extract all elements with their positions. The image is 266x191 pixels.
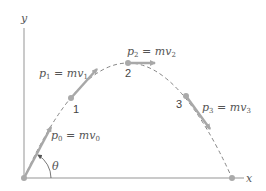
point-1-label: 1 xyxy=(73,103,79,115)
angle-theta-label: θ xyxy=(52,160,59,173)
point-2 xyxy=(125,60,131,66)
point-2-label: 2 xyxy=(125,67,131,79)
point-origin xyxy=(21,175,27,181)
momentum-label-1: p1 = mv1 xyxy=(39,67,88,81)
point-1 xyxy=(68,95,74,101)
projectile-diagram: y x θ 1 2 3 p0 = mv0 p1 = mv1 p2 = mv2 p… xyxy=(0,0,266,191)
point-landing xyxy=(229,175,235,181)
x-axis-label: x xyxy=(246,172,253,185)
point-3 xyxy=(183,93,189,99)
y-axis-label: y xyxy=(20,12,28,25)
momentum-label-3: p3 = mv3 xyxy=(202,101,251,115)
angle-arc xyxy=(38,155,51,178)
momentum-label-2: p2 = mv2 xyxy=(127,45,176,59)
momentum-label-0: p0 = mv0 xyxy=(51,129,100,143)
momentum-arrow-0 xyxy=(24,127,51,178)
point-3-label: 3 xyxy=(176,98,182,110)
